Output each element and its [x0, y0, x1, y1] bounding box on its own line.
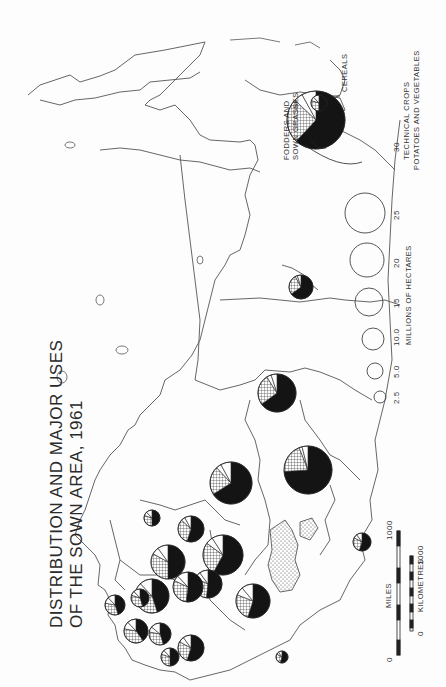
- region-pie: [210, 462, 252, 504]
- region-pie: [311, 95, 327, 111]
- scale-miles-label: MILES: [384, 583, 393, 608]
- legend-sample-value: 30: [392, 142, 401, 152]
- internal-border-7: [320, 485, 335, 555]
- legend-fodders-label: FODDERS AND SOWN GRASSES: [282, 92, 300, 160]
- scale-bar: [397, 531, 413, 655]
- region-pie: [178, 516, 204, 542]
- region-pie: [151, 545, 185, 579]
- legend-potatoes-label: POTATOES AND VEGETABLES: [412, 50, 421, 170]
- region-pie: [161, 648, 179, 666]
- region-pie: [276, 651, 288, 663]
- legend-size-10: 10.0: [392, 328, 401, 346]
- region-pie: [144, 510, 160, 526]
- region-pie: [105, 595, 125, 615]
- caspian-sea: [268, 520, 300, 592]
- region-pie: [236, 584, 270, 618]
- baltic-border: [110, 520, 125, 590]
- cereals-slice: [170, 648, 179, 666]
- aral-sea: [300, 518, 318, 540]
- legend-size-20: 20: [392, 258, 401, 268]
- region-pie: [124, 619, 148, 643]
- map-title: DISTRIBUTION AND MAJOR USES OF THE SOWN …: [47, 340, 87, 628]
- size-legend: [345, 193, 386, 403]
- cereals-slice: [152, 510, 160, 526]
- region-pie: [149, 623, 171, 645]
- region-pie: [203, 535, 243, 575]
- region-pie: [131, 589, 149, 607]
- region-pie: [284, 446, 332, 494]
- region-pie: [173, 572, 203, 602]
- region-pie: [258, 374, 296, 412]
- legend-size-15: 15: [392, 298, 401, 308]
- title-line-2: OF THE SOWN AREA, 1961: [67, 340, 87, 628]
- legend-technical-label: TECHNICAL CROPS: [402, 82, 411, 160]
- internal-border-4: [220, 298, 400, 305]
- region-pies: [105, 91, 371, 666]
- scale-km-label: KILOMETRES: [416, 559, 425, 612]
- region-pie: [289, 275, 313, 299]
- scale-km-start: 0: [416, 631, 425, 636]
- legend-fodders-line1: FODDERS AND: [282, 92, 291, 160]
- legend-size-5: 5.0: [392, 365, 401, 378]
- internal-border-1: [100, 148, 260, 172]
- legend-cereals-label: CEREALS: [340, 53, 349, 92]
- title-line-1: DISTRIBUTION AND MAJOR USES: [47, 340, 67, 628]
- legend-fodders-line2: SOWN GRASSES: [291, 92, 300, 160]
- islands: [57, 38, 320, 383]
- legend-size-25: 25: [392, 210, 401, 220]
- region-pie: [353, 533, 371, 551]
- scale-miles-start: 0: [385, 657, 394, 662]
- legend-unit-label: MILLIONS OF HECTARES: [404, 245, 413, 345]
- region-pie: [178, 635, 204, 661]
- scale-miles-end: 1000: [385, 520, 394, 540]
- legend-size-2-5: 2.5: [392, 391, 401, 404]
